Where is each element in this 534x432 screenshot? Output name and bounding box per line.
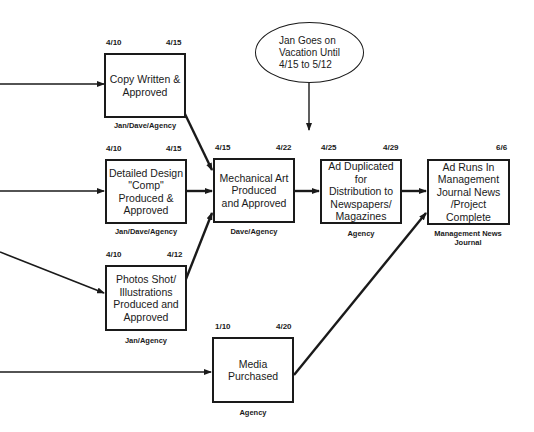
task-copy-written: Copy Written & Approved [104, 53, 186, 118]
task-label: Media Purchased [228, 358, 278, 383]
media-start-date: 1/10 [215, 322, 231, 331]
media-end-date: 4/20 [276, 322, 292, 331]
task-mechanical-art: Mechanical Art Produced and Approved [213, 158, 295, 223]
design-end-date: 4/15 [166, 144, 182, 153]
duplicated-owner: Agency [316, 229, 406, 238]
mechanical-start-date: 4/15 [215, 143, 231, 152]
task-detailed-design: Detailed Design "Comp" Produced & Approv… [105, 159, 187, 224]
task-label: Copy Written & Approved [110, 73, 180, 98]
media-owner: Agency [208, 408, 298, 417]
design-owner: Jan/Dave/Agency [101, 227, 191, 236]
photos-start-date: 4/10 [106, 250, 122, 259]
copy-owner: Jan/Dave/Agency [100, 121, 190, 130]
copy-start-date: 4/10 [106, 38, 122, 47]
runs-end-date: 6/6 [496, 143, 507, 152]
mechanical-end-date: 4/22 [276, 143, 292, 152]
task-ad-duplicated: Ad Duplicated for Distribution to Newspa… [320, 159, 402, 224]
task-ad-runs: Ad Runs In Management Journal News /Proj… [427, 159, 510, 225]
mechanical-owner: Dave/Agency [209, 227, 299, 236]
vacation-note-text: Jan Goes on Vacation Until 4/15 to 5/12 [279, 35, 340, 71]
task-label: Detailed Design "Comp" Produced & Approv… [109, 167, 183, 217]
task-label: Ad Runs In Management Journal News /Proj… [437, 161, 501, 224]
duplicated-end-date: 4/29 [383, 143, 399, 152]
photos-owner: Jan/Agency [101, 336, 191, 345]
task-media-purchased: Media Purchased [212, 337, 294, 403]
runs-owner: Management News Journal [418, 229, 518, 247]
task-photos-shot: Photos Shot/ Illustrations Produced and … [105, 265, 187, 331]
task-label: Mechanical Art Produced and Approved [220, 172, 289, 210]
pert-diagram: Jan Goes on Vacation Until 4/15 to 5/12 … [0, 0, 534, 432]
arrow-photos-to-mechanical [186, 213, 212, 279]
duplicated-start-date: 4/25 [321, 143, 337, 152]
design-start-date: 4/10 [106, 144, 122, 153]
vacation-note: Jan Goes on Vacation Until 4/15 to 5/12 [255, 22, 364, 83]
photos-end-date: 4/12 [167, 250, 183, 259]
copy-end-date: 4/15 [166, 38, 182, 47]
arrow-in-photos [0, 252, 104, 293]
task-label: Photos Shot/ Illustrations Produced and … [113, 273, 178, 323]
task-label: Ad Duplicated for Distribution to Newspa… [322, 160, 400, 223]
